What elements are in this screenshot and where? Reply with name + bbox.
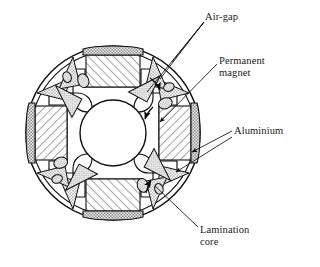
rotor-assembly (26, 46, 200, 220)
label-permanent-magnet: Permanent magnet (219, 55, 265, 78)
shaft-bore (80, 100, 146, 166)
leader-air-gap-3 (172, 22, 204, 62)
label-air-gap: Air-gap (205, 11, 238, 23)
label-aluminium: Aluminium (234, 125, 283, 137)
label-lamination-core: Lamination core (200, 224, 249, 247)
